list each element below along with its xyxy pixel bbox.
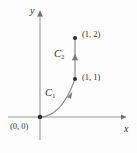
curve-c2-label: C2 xyxy=(54,49,64,60)
curve-c1-subscript: 1 xyxy=(52,93,55,99)
curve-c2-arrowhead xyxy=(72,54,78,61)
point-1-2-label: (1, 2) xyxy=(82,30,100,39)
y-axis-label: y xyxy=(30,6,34,16)
curve-c2-subscript: 2 xyxy=(61,54,64,60)
point-1-2-dot xyxy=(73,36,77,40)
x-axis-label: x xyxy=(124,124,128,134)
curve-c1-letter: C xyxy=(45,87,52,98)
point-origin-dot xyxy=(38,115,43,120)
point-1-1-dot xyxy=(73,77,77,81)
point-1-1-label: (1, 1) xyxy=(82,73,100,82)
math-figure: y x (0, 0) (1, 1) (1, 2) C1 C2 xyxy=(0,0,137,153)
curve-c1-label: C1 xyxy=(45,88,55,99)
point-origin-label: (0, 0) xyxy=(10,122,28,131)
curve-c2-letter: C xyxy=(54,48,61,59)
